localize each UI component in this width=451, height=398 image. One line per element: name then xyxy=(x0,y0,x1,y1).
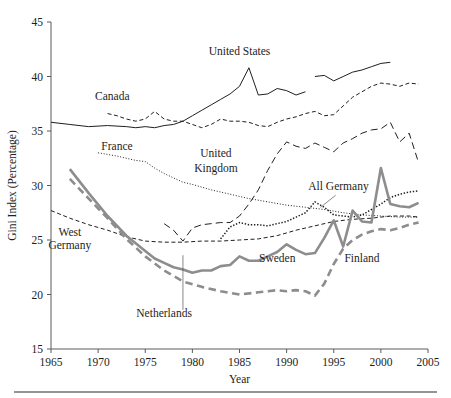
series-line-canada xyxy=(108,83,419,128)
chart-canvas: 15202530354045 1965197019751980198519901… xyxy=(0,0,451,398)
y-tick-label: 25 xyxy=(32,234,44,246)
series-line-united-kingdom xyxy=(164,122,418,241)
series-line-netherlands xyxy=(70,179,419,296)
series-label-france: France xyxy=(101,140,132,152)
y-tick-label: 45 xyxy=(32,16,44,28)
y-tick-label: 20 xyxy=(32,289,44,301)
series-annotations: United StatesCanadaFranceUnitedKingdomAl… xyxy=(48,45,379,320)
y-axis-ticks: 15202530354045 xyxy=(32,16,52,355)
x-tick-label: 2000 xyxy=(369,356,392,368)
series-label-finland: Finland xyxy=(344,252,379,264)
series-label-all-germany: All Germany xyxy=(308,180,369,193)
x-axis-ticks: 196519701975198019851990199520002005 xyxy=(40,349,440,368)
y-tick-label: 35 xyxy=(32,125,44,137)
leader-line-all-germany xyxy=(321,195,336,207)
x-tick-label: 2005 xyxy=(417,356,440,368)
series-label-sweden: Sweden xyxy=(259,252,296,264)
series-line-france xyxy=(98,153,418,217)
x-tick-label: 1970 xyxy=(87,356,110,368)
series-label-united: United xyxy=(200,147,232,159)
x-tick-label: 1980 xyxy=(181,356,204,368)
x-tick-label: 1965 xyxy=(40,356,63,368)
x-tick-label: 1985 xyxy=(228,356,251,368)
x-axis-title: Year xyxy=(229,373,250,385)
y-tick-label: 30 xyxy=(32,180,44,192)
series-line-united-states xyxy=(315,62,390,81)
series-label-west: West xyxy=(58,226,82,238)
series-line-united-states xyxy=(51,68,305,128)
x-tick-label: 1990 xyxy=(275,356,298,368)
series-label-kingdom: Kingdom xyxy=(194,162,238,175)
series-label-germany: Germany xyxy=(48,239,91,252)
y-tick-label: 15 xyxy=(32,343,44,355)
series-label-canada: Canada xyxy=(95,90,129,102)
y-axis-title: Gini Index (Percentage) xyxy=(6,130,19,241)
x-tick-label: 1975 xyxy=(134,356,157,368)
series-label-netherlands: Netherlands xyxy=(136,307,192,319)
x-tick-label: 1995 xyxy=(322,356,345,368)
y-tick-label: 40 xyxy=(32,71,44,83)
gini-index-line-chart-figure: 15202530354045 1965197019751980198519901… xyxy=(0,0,451,398)
series-label-united-states: United States xyxy=(209,45,271,57)
